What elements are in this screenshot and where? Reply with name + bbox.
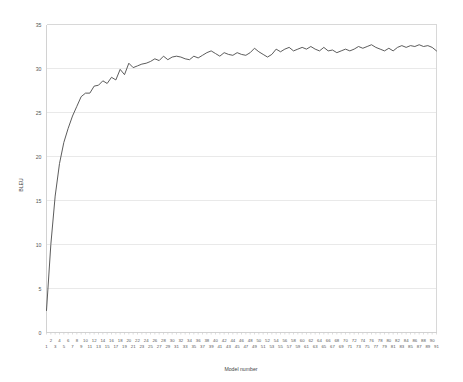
x-tick-label: 41 [217,344,222,349]
x-tick-label: 1 [45,344,48,349]
x-tick-label: 38 [204,338,209,343]
x-tick-label: 11 [88,344,93,349]
x-tick-label: 61 [304,344,309,349]
x-tick-label: 42 [222,338,227,343]
x-tick-label: 3 [54,344,57,349]
x-tick-label: 21 [131,344,136,349]
x-tick-label: 20 [126,338,131,343]
x-tick-label: 4 [58,338,61,343]
x-tick-label: 51 [261,344,266,349]
x-tick-label: 5 [63,344,66,349]
y-tick-label: 0 [39,330,42,336]
x-tick-label: 16 [109,338,114,343]
x-tick-label: 63 [313,344,318,349]
x-tick-label: 57 [287,344,292,349]
x-axis-title: Model number [224,366,257,372]
x-tick-label: 88 [421,338,426,343]
x-tick-label: 44 [230,338,235,343]
x-tick-label: 55 [278,344,283,349]
x-tick-label: 46 [239,338,244,343]
x-tick-label: 12 [92,338,97,343]
x-tick-label: 19 [122,344,127,349]
x-tick-label: 86 [412,338,417,343]
x-tick-label: 36 [196,338,201,343]
x-tick-label: 23 [139,344,144,349]
x-tick-label: 82 [395,338,400,343]
plot-frame [47,25,437,333]
x-tick-label: 74 [360,338,365,343]
x-tick-label: 6 [67,338,70,343]
x-tick-label: 65 [321,344,326,349]
x-tick-label: 10 [83,338,88,343]
x-tick-label: 30 [170,338,175,343]
x-tick-label: 48 [248,338,253,343]
y-axis-tick-labels: 05101520253035 [36,22,42,336]
x-tick-label: 87 [417,344,422,349]
x-tick-label: 47 [243,344,248,349]
x-tick-label: 66 [326,338,331,343]
x-tick-label: 29 [165,344,170,349]
x-tick-label: 53 [269,344,274,349]
x-tick-label: 84 [404,338,409,343]
x-tick-label: 67 [330,344,335,349]
x-tick-label: 39 [209,344,214,349]
x-tick-label: 15 [105,344,110,349]
x-tick-label: 58 [291,338,296,343]
x-tick-label: 76 [369,338,374,343]
x-tick-label: 54 [274,338,279,343]
x-tick-label: 18 [118,338,123,343]
x-tick-label: 25 [148,344,153,349]
x-tick-label: 43 [226,344,231,349]
x-tick-label: 77 [373,344,378,349]
x-tick-label: 40 [213,338,218,343]
x-tick-label: 50 [256,338,261,343]
x-tick-label: 17 [113,344,118,349]
x-tick-label: 31 [174,344,179,349]
x-tick-label: 34 [187,338,192,343]
x-tick-label: 37 [200,344,205,349]
x-tick-label: 78 [378,338,383,343]
x-tick-label: 56 [282,338,287,343]
x-tick-label: 8 [76,338,79,343]
x-tick-label: 60 [300,338,305,343]
x-tick-label: 72 [352,338,357,343]
x-tick-label: 68 [334,338,339,343]
x-tick-label: 91 [434,344,439,349]
x-tick-label: 71 [347,344,352,349]
x-tick-label: 62 [308,338,313,343]
y-tick-label: 5 [39,286,42,292]
x-tick-label: 80 [386,338,391,343]
x-tick-label: 24 [144,338,149,343]
x-tick-label: 33 [183,344,188,349]
y-tick-label: 35 [36,22,42,28]
y-gridlines [47,25,437,333]
x-tick-label: 52 [265,338,270,343]
bleu-series-line [47,45,437,311]
x-axis-tick-labels: 1234567891011121314151617181920212223242… [45,333,439,349]
y-tick-label: 20 [36,154,42,160]
x-tick-label: 27 [157,344,162,349]
y-axis-title: BLEU [18,178,24,192]
x-tick-label: 35 [191,344,196,349]
x-tick-label: 28 [161,338,166,343]
x-tick-label: 75 [365,344,370,349]
y-tick-label: 25 [36,110,42,116]
chart-canvas: 05101520253035 1234567891011121314151617… [0,0,463,382]
x-tick-label: 83 [399,344,404,349]
x-tick-label: 26 [152,338,157,343]
x-tick-label: 22 [135,338,140,343]
x-tick-label: 13 [96,344,101,349]
x-tick-label: 85 [408,344,413,349]
x-tick-label: 59 [295,344,300,349]
x-tick-label: 64 [317,338,322,343]
x-tick-label: 7 [71,344,74,349]
x-tick-label: 89 [425,344,430,349]
x-tick-label: 2 [50,338,53,343]
x-tick-label: 49 [252,344,257,349]
x-tick-label: 73 [356,344,361,349]
x-tick-label: 45 [235,344,240,349]
y-tick-label: 10 [36,242,42,248]
x-tick-label: 79 [382,344,387,349]
x-tick-label: 9 [80,344,83,349]
y-tick-label: 15 [36,198,42,204]
